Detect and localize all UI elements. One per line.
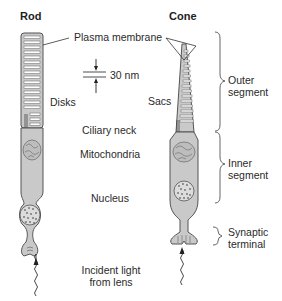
rod-title: Rod xyxy=(20,10,41,22)
ciliary-neck-label: Ciliary neck xyxy=(82,124,136,136)
outer-segment-label: Outer segment xyxy=(228,74,268,98)
scale-marker xyxy=(83,59,106,93)
disks-label: Disks xyxy=(50,96,76,108)
cone-cell xyxy=(166,38,198,285)
plasma-membrane-label: Plasma membrane xyxy=(74,31,162,43)
photoreceptor-diagram xyxy=(0,0,282,301)
cone-title: Cone xyxy=(169,10,197,22)
scale-label: 30 nm xyxy=(110,69,139,81)
mitochondria-label: Mitochondria xyxy=(80,148,140,160)
incident-light-label: Incident light from lens xyxy=(80,264,142,288)
inner-segment-label: Inner segment xyxy=(228,157,268,181)
segment-braces xyxy=(213,32,225,245)
sacs-label: Sacs xyxy=(148,95,171,107)
rod-cell xyxy=(20,33,44,296)
nucleus-label: Nucleus xyxy=(91,192,129,204)
synaptic-terminal-label: Synaptic terminal xyxy=(228,226,268,250)
